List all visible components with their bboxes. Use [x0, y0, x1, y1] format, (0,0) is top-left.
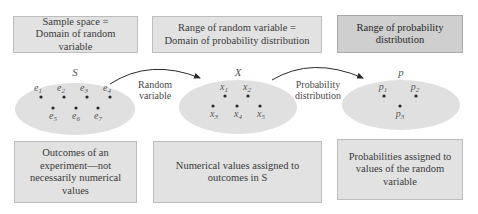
- probabilities-description-text: Probabilities assigned to values of the …: [349, 151, 452, 189]
- numerical-values-description-box: Numerical values assigned to outcomes in…: [153, 141, 322, 203]
- point-x1-dot: [223, 94, 226, 97]
- point-x2-dot: [246, 94, 249, 97]
- set-label-X: X: [234, 66, 243, 78]
- set-label-p: p: [397, 66, 404, 78]
- numerical-values-description-text: Numerical values assigned to outcomes in…: [176, 160, 299, 185]
- probabilities-description-box: Probabilities assigned to values of the …: [337, 139, 463, 200]
- point-e3-dot: [85, 95, 88, 98]
- outcomes-description-text: Outcomes of an experiment—not necessaril…: [30, 147, 121, 197]
- probability-distribution-arrow-label-line1: Probability: [296, 79, 340, 90]
- outcomes-description-box: Outcomes of an experiment—not necessaril…: [14, 141, 137, 203]
- random-variable-arrow-label-line1: Random: [138, 79, 172, 90]
- probability-distribution-arrow-label-line2: distribution: [295, 90, 341, 101]
- point-p1-dot: [382, 94, 385, 97]
- point-e4-dot: [108, 95, 111, 98]
- random-variable-arrow-label-line2: variable: [139, 90, 172, 101]
- set-label-S: S: [72, 66, 78, 78]
- point-e1-dot: [39, 95, 42, 98]
- point-p2-dot: [414, 94, 417, 97]
- point-e2-dot: [62, 95, 65, 98]
